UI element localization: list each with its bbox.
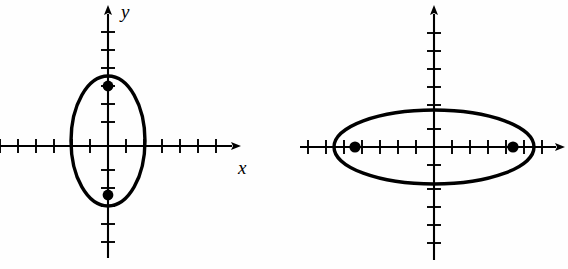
left-focus-upper-dot: [103, 81, 114, 92]
left-y-axis-label: y: [121, 2, 129, 21]
right-plot-svg: [284, 0, 568, 269]
left-plot-panel: y x: [0, 0, 284, 269]
right-focus-left-dot: [349, 141, 360, 152]
left-x-axis-label: x: [238, 158, 246, 177]
figure-container: y x: [0, 0, 568, 269]
left-focus-lower-dot: [103, 190, 114, 201]
right-plot-panel: y x 0.5 0.5: [284, 0, 568, 269]
right-focus-right-dot: [507, 141, 518, 152]
left-plot-svg: [0, 0, 284, 269]
